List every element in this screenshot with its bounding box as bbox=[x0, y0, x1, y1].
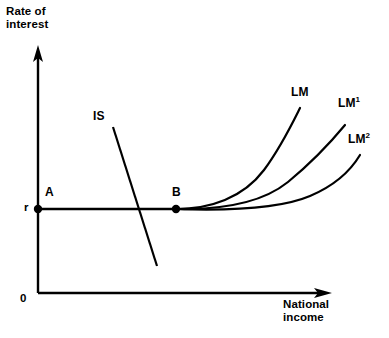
lm2-curve-label-superscript: 2 bbox=[366, 131, 371, 140]
y-axis-title: Rate of interest bbox=[6, 5, 48, 31]
is-lm-liquidity-trap-figure: Rate of interest National income IS LM L… bbox=[0, 0, 389, 338]
is-curve-label: IS bbox=[93, 110, 105, 124]
lm1-curve bbox=[176, 125, 345, 209]
is-curve bbox=[113, 127, 157, 266]
lm2-curve-label-base: LM bbox=[348, 132, 366, 146]
x-axis-title: National income bbox=[283, 298, 329, 324]
point-a-label: A bbox=[45, 186, 54, 200]
lm1-curve-label-superscript: 1 bbox=[356, 95, 361, 104]
lm2-curve-label: LM2 bbox=[348, 131, 370, 147]
origin-label: 0 bbox=[20, 292, 27, 305]
point-b-marker bbox=[172, 205, 180, 213]
lm-curve-label-base: LM bbox=[291, 85, 309, 99]
lm1-curve-label: LM1 bbox=[338, 95, 360, 111]
point-a-marker bbox=[34, 205, 42, 213]
diagram-canvas bbox=[0, 0, 389, 338]
lm-curve-label: LM bbox=[291, 86, 309, 100]
x-axis bbox=[38, 288, 332, 298]
y-axis bbox=[33, 45, 43, 293]
lm-curve bbox=[176, 108, 300, 209]
y-axis-tick-label-r: r bbox=[24, 201, 29, 214]
point-b-label: B bbox=[172, 186, 181, 200]
lm1-curve-label-base: LM bbox=[338, 96, 356, 110]
